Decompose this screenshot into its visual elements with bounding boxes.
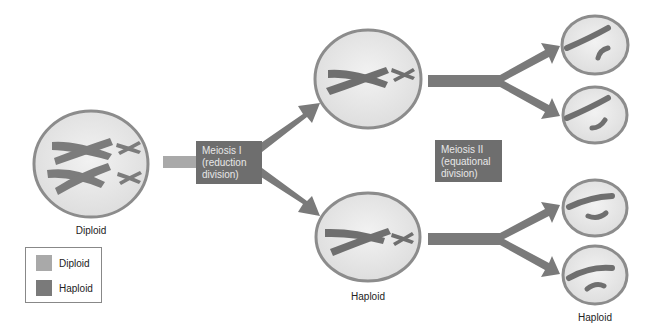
meiosis2-stage-box: Meiosis II (equational division) bbox=[435, 140, 502, 182]
meiosis2-title: Meiosis II bbox=[441, 144, 496, 156]
diploid-connector-bar bbox=[163, 156, 197, 168]
meiosis2-arrows-top bbox=[428, 43, 560, 119]
legend-label-diploid: Diploid bbox=[59, 258, 90, 269]
daughter-cell-1 bbox=[562, 16, 628, 74]
legend-swatch-diploid bbox=[36, 255, 52, 271]
meiosis2-subtitle-2: division) bbox=[441, 168, 496, 180]
label-haploid-daughters: Haploid bbox=[570, 312, 620, 323]
meiosis2-arrows-bottom bbox=[428, 202, 560, 277]
parent-cell-diploid bbox=[34, 111, 148, 217]
legend-label-haploid: Haploid bbox=[59, 283, 93, 294]
haploid-cell-bottom bbox=[316, 193, 420, 281]
label-haploid-meiosis1: Haploid bbox=[343, 291, 393, 302]
meiosis1-arrows bbox=[258, 103, 320, 216]
meiosis1-title: Meiosis I bbox=[202, 145, 256, 157]
legend: Diploid Haploid bbox=[25, 247, 102, 303]
label-diploid-parent: Diploid bbox=[66, 225, 116, 236]
daughter-cell-4 bbox=[563, 246, 627, 304]
legend-swatch-haploid bbox=[36, 280, 52, 296]
daughter-cell-3 bbox=[563, 180, 627, 236]
meiosis1-subtitle-2: division) bbox=[202, 169, 256, 181]
legend-item-diploid: Diploid bbox=[36, 255, 90, 271]
meiosis1-subtitle-1: (reduction bbox=[202, 157, 256, 169]
daughter-cell-2 bbox=[563, 87, 627, 143]
meiosis2-subtitle-1: (equational bbox=[441, 156, 496, 168]
meiosis1-stage-box: Meiosis I (reduction division) bbox=[196, 141, 262, 184]
legend-item-haploid: Haploid bbox=[36, 280, 93, 296]
haploid-cell-top bbox=[315, 30, 421, 128]
